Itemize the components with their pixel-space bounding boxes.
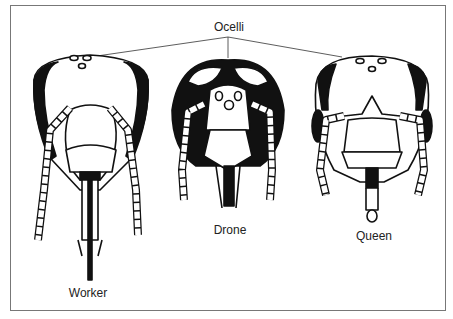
queen-head xyxy=(312,56,432,222)
ocelli-label: Ocelli xyxy=(214,20,244,34)
ocelli-callout-lines xyxy=(97,37,342,58)
worker-head xyxy=(34,55,148,280)
bee-heads-diagram xyxy=(0,0,453,319)
worker-label: Worker xyxy=(69,286,107,300)
drone-head xyxy=(172,60,284,208)
queen-label: Queen xyxy=(356,229,392,243)
drone-label: Drone xyxy=(214,223,247,237)
